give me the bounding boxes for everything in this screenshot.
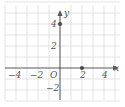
grid-lines-horizontal	[5, 2, 120, 101]
y-tick-label-pos2: 2	[51, 42, 57, 51]
y-tick-label-pos4: 4	[51, 20, 57, 29]
origin-label: O	[50, 71, 57, 80]
x-tick-label-pos4: 4	[102, 71, 108, 80]
coordinate-plane-graph	[0, 0, 125, 107]
x-tick-label-pos2: 2	[80, 71, 86, 80]
y-axis-label: y	[64, 9, 69, 18]
y-tick-label-neg2: −2	[46, 84, 59, 93]
data-point	[58, 22, 62, 26]
x-tick-label-neg2: −2	[30, 71, 43, 80]
x-axis-label: x	[114, 64, 119, 73]
coordinate-plane-figure: −4 −2 2 4 4 2 −2 O y x	[0, 0, 125, 107]
x-tick-label-neg4: −4	[8, 71, 21, 80]
